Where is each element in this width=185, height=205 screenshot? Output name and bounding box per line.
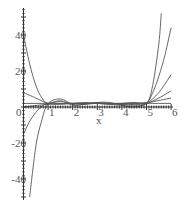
chart: 0123456 4020-20-40 x <box>0 0 185 205</box>
x-tick-label: 4 <box>123 106 129 118</box>
y-ticks: 4020-20-40 <box>11 10 26 197</box>
y-tick-label: 40 <box>15 29 27 41</box>
y-tick-label: -20 <box>11 137 26 149</box>
y-tick-label: -40 <box>11 173 26 185</box>
curve-1 <box>24 13 162 105</box>
x-tick-label: 5 <box>148 106 154 118</box>
x-tick-label: 0 <box>16 106 22 118</box>
y-tick-label: 20 <box>15 65 27 77</box>
x-tick-label: 6 <box>172 106 178 118</box>
x-tick-label: 1 <box>49 106 55 118</box>
x-tick-label: 2 <box>74 106 80 118</box>
x-axis-label: x <box>96 114 102 126</box>
